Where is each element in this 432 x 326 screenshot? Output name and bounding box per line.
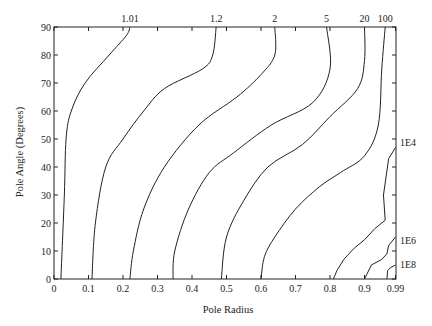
contour-line-2 xyxy=(130,27,276,279)
contour-line-1E6 xyxy=(365,237,396,279)
x-axis-label: Pole Radius xyxy=(203,304,253,315)
y-axis-label: Pole Angle (Degrees) xyxy=(14,106,26,197)
x-tick-label: 0 xyxy=(52,283,57,294)
y-tick-label: 80 xyxy=(41,50,51,61)
contour-label-1E4: 1E4 xyxy=(400,137,416,148)
contour-label-1.2: 1.2 xyxy=(210,13,223,24)
contour-label-5: 5 xyxy=(324,13,329,24)
y-tick-label: 50 xyxy=(41,134,51,145)
contour-line-100 xyxy=(261,27,385,279)
x-tick-label: 0.5 xyxy=(220,283,233,294)
contour-label-20: 20 xyxy=(360,13,370,24)
contour-chart: 00.10.20.30.40.50.60.70.80.90.99 0102030… xyxy=(0,0,432,326)
contour-label-1E6: 1E6 xyxy=(400,235,416,246)
y-tick-label: 30 xyxy=(41,190,51,201)
x-tick-label: 0.4 xyxy=(186,283,199,294)
y-tick-label: 20 xyxy=(41,218,51,229)
contour-label-1E8: 1E8 xyxy=(400,259,416,270)
y-tick-label: 70 xyxy=(41,78,51,89)
x-tick-label: 0.2 xyxy=(117,283,130,294)
contour-label-1.01: 1.01 xyxy=(121,13,139,24)
contour-lines xyxy=(61,27,396,279)
x-tick-label: 0.6 xyxy=(255,283,268,294)
contour-line-1.01 xyxy=(61,27,130,279)
y-tick-label: 90 xyxy=(41,22,51,33)
contour-label-100: 100 xyxy=(378,13,393,24)
x-tick-label: 0.3 xyxy=(151,283,164,294)
x-tick-label: 0.1 xyxy=(82,283,95,294)
contour-label-2: 2 xyxy=(272,13,277,24)
contour-line-5 xyxy=(173,27,331,279)
contour-line-1E4 xyxy=(333,147,395,279)
y-tick-label: 60 xyxy=(41,106,51,117)
contour-line-1.2 xyxy=(92,27,216,279)
x-tick-label: 0.9 xyxy=(358,283,371,294)
x-tick-label: 0.8 xyxy=(324,283,337,294)
x-tick-label: 0.99 xyxy=(387,283,405,294)
x-axis-ticks: 00.10.20.30.40.50.60.70.80.90.99 xyxy=(52,27,405,294)
y-axis-ticks: 0102030405060708090 xyxy=(41,22,396,285)
contour-line-20 xyxy=(221,27,365,279)
contour-line-1E8 xyxy=(387,265,396,279)
x-tick-label: 0.7 xyxy=(289,283,302,294)
y-tick-label: 0 xyxy=(46,274,51,285)
y-tick-label: 10 xyxy=(41,246,51,257)
y-tick-label: 40 xyxy=(41,162,51,173)
